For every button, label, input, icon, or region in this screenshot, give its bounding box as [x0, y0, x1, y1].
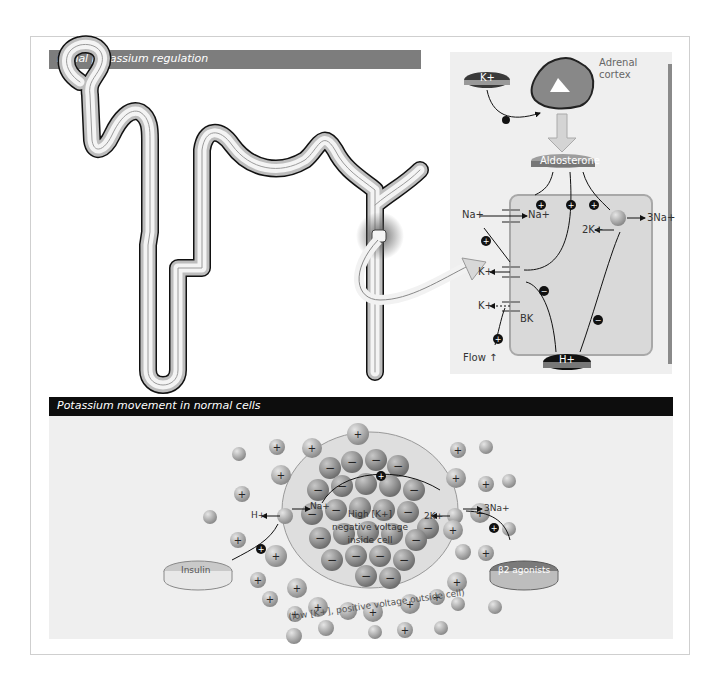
svg-text:+: + — [354, 429, 362, 440]
svg-text:+: + — [308, 443, 316, 454]
svg-text:+: + — [449, 525, 457, 536]
inside-line-1: High [K+] — [320, 508, 420, 521]
svg-text:−: − — [313, 483, 323, 497]
svg-text:+: + — [293, 583, 301, 594]
svg-text:−: − — [423, 521, 433, 535]
svg-text:−: − — [361, 569, 371, 583]
svg-text:−: − — [347, 455, 357, 469]
svg-text:+: + — [273, 442, 281, 453]
svg-text:−: − — [385, 571, 395, 585]
svg-text:−: − — [393, 459, 403, 473]
svg-text:+: + — [482, 479, 490, 490]
svg-text:+: + — [491, 524, 498, 533]
svg-text:+: + — [266, 594, 274, 605]
svg-text:−: − — [371, 453, 381, 467]
svg-text:+: + — [258, 545, 265, 554]
h-plus-label: H+ — [251, 510, 265, 520]
svg-text:+: + — [482, 548, 490, 559]
svg-text:−: − — [375, 549, 385, 563]
inside-cell-text: High [K+] negative voltage inside cell — [320, 508, 420, 547]
svg-text:+: + — [378, 472, 385, 481]
svg-text:+: + — [234, 535, 242, 546]
svg-text:+: + — [452, 473, 460, 484]
two-k-label: 2K+ — [424, 511, 443, 521]
svg-text:−: − — [327, 553, 337, 567]
inside-line-3: inside cell — [320, 534, 420, 547]
svg-text:+: + — [272, 551, 280, 562]
cell-diagram: −−−− −−− −−−− −−−− −−−− ++++ ++++ ++++ +… — [0, 0, 718, 682]
three-na-label: 3Na+ — [484, 503, 510, 513]
svg-text:+: + — [453, 577, 461, 588]
insulin-label: Insulin — [181, 565, 210, 575]
svg-text:−: − — [409, 483, 419, 497]
svg-text:+: + — [238, 489, 246, 500]
svg-text:+: + — [454, 445, 462, 456]
inside-line-2: negative voltage — [320, 521, 420, 534]
svg-text:−: − — [325, 461, 335, 475]
beta2-agonists-label: β2 agonists — [498, 565, 550, 575]
svg-text:+: + — [254, 575, 262, 586]
svg-text:−: − — [351, 549, 361, 563]
svg-text:−: − — [399, 553, 409, 567]
svg-text:+: + — [277, 470, 285, 481]
svg-text:+: + — [401, 625, 409, 636]
